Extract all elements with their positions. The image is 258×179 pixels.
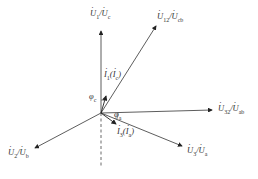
- label-u12: U12/Ucb: [157, 12, 183, 23]
- label-u1: U1/Uc: [90, 9, 110, 20]
- label-phi-c: φc: [89, 92, 96, 103]
- vector-u2: [35, 113, 101, 148]
- label-u2: U2/Ub: [8, 148, 29, 159]
- label-u32: U32/Uab: [218, 104, 244, 115]
- label-phi-a: φa: [114, 110, 121, 121]
- label-i1: I1(Ic): [104, 70, 121, 81]
- vector-i1: [101, 96, 106, 113]
- label-u3: U3/Ua: [187, 146, 207, 157]
- label-i3: I3(Ia): [117, 127, 134, 138]
- phasor-diagram: [0, 0, 258, 179]
